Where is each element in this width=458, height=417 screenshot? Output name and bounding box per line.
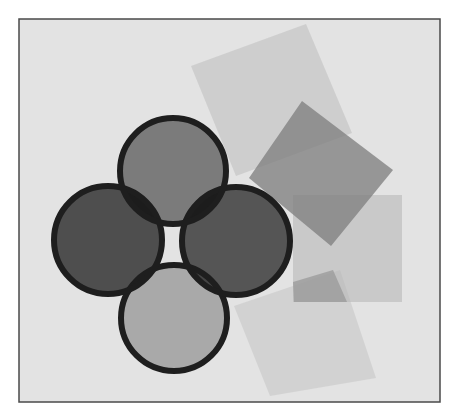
abstract-shapes-illustration: [0, 0, 458, 417]
artwork-canvas: [0, 0, 458, 417]
